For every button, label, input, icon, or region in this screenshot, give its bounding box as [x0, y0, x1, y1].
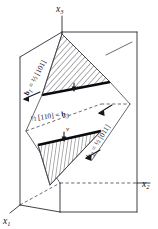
mid-cut-plane	[26, 82, 130, 183]
b3-arrow	[98, 105, 112, 116]
crystal-dislocation-figure: x3 x2 x1 b1 = ½ [101] ½ [110] = b3 b2 = …	[0, 0, 158, 229]
axis-label-x1: x1	[2, 216, 10, 227]
axis-label-x2: x2	[141, 179, 150, 190]
burgers-label-b3: ½ [110] = b3	[30, 109, 69, 124]
axis-x1	[10, 205, 20, 213]
upper-slip-plane	[42, 34, 110, 95]
axis-label-x3: x3	[55, 4, 63, 15]
velocity-label-lower: v	[66, 125, 70, 133]
figure-canvas: x3 x2 x1 b1 = ½ [101] ½ [110] = b3 b2 = …	[0, 0, 158, 229]
